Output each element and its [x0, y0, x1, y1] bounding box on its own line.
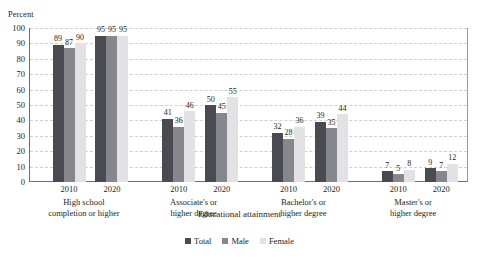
bar-group: 898790: [53, 28, 86, 182]
x-axis-year-label: 2020: [82, 184, 142, 194]
y-axis-tick-label: 40: [17, 116, 26, 125]
bars-layer: 8987909595954136465045553228363935447589…: [29, 28, 468, 182]
x-axis-year-label: 2020: [411, 184, 471, 194]
bar-group: 393544: [315, 28, 348, 182]
y-axis-tick-label: 30: [17, 132, 26, 141]
bar: [404, 170, 415, 182]
bar-group: 322836: [272, 28, 305, 182]
bar: [425, 168, 436, 182]
bar-group: 959595: [95, 28, 128, 182]
bar: [315, 122, 326, 182]
y-axis-tick-label: 0: [21, 178, 25, 187]
bar-value-label: 36: [292, 117, 308, 125]
bar: [447, 164, 458, 182]
y-axis-tick-label: 20: [17, 147, 26, 156]
bar: [337, 114, 348, 182]
y-axis-tick-label: 90: [17, 39, 26, 48]
bar: [75, 43, 86, 182]
x-axis-year-label: 2020: [301, 184, 361, 194]
bar: [53, 45, 64, 182]
legend: TotalMaleFemale: [0, 236, 479, 246]
bar: [227, 97, 238, 182]
bar: [162, 119, 173, 182]
bar-group: 758: [382, 28, 415, 182]
bar-group: 504555: [205, 28, 238, 182]
legend-item[interactable]: Total: [185, 236, 211, 246]
legend-item[interactable]: Male: [222, 236, 248, 246]
bar: [106, 36, 117, 182]
y-axis-tick-label: 50: [17, 101, 26, 110]
bar: [184, 111, 195, 182]
bar-value-label: 12: [444, 154, 460, 162]
bar: [95, 36, 106, 182]
bar: [393, 174, 404, 182]
y-axis-unit-label: Percent: [8, 9, 34, 19]
bar: [272, 133, 283, 182]
y-axis-tick-label: 60: [17, 85, 26, 94]
bar-group: 413646: [162, 28, 195, 182]
legend-label: Male: [231, 236, 248, 246]
legend-swatch: [222, 238, 228, 244]
legend-label: Female: [269, 236, 294, 246]
y-axis-tick-label: 80: [17, 55, 26, 64]
y-axis-tick-label: 100: [12, 24, 25, 33]
bar-value-label: 55: [225, 88, 241, 96]
bar: [205, 105, 216, 182]
legend-swatch: [185, 238, 191, 244]
bar-value-label: 95: [115, 26, 131, 34]
bar: [283, 139, 294, 182]
bar-value-label: 46: [182, 102, 198, 110]
x-axis-year-label: 2020: [192, 184, 252, 194]
bar-value-label: 44: [334, 105, 350, 113]
x-axis-title: Educational attainment: [0, 209, 479, 220]
bar-group: 9712: [425, 28, 458, 182]
legend-label: Total: [194, 236, 211, 246]
bar-chart: Percent 1009080706050403020100 898790959…: [0, 0, 479, 264]
bar: [382, 171, 393, 182]
y-axis-ticks: 1009080706050403020100: [0, 28, 27, 182]
bar: [117, 36, 128, 182]
bar-value-label: 90: [72, 34, 88, 42]
bar-value-label: 8: [401, 160, 417, 168]
bar: [173, 127, 184, 182]
bar: [64, 48, 75, 182]
bar: [326, 128, 337, 182]
y-axis-tick-label: 70: [17, 70, 26, 79]
y-axis-tick-label: 10: [17, 162, 26, 171]
legend-item[interactable]: Female: [260, 236, 294, 246]
bar: [216, 113, 227, 182]
legend-swatch: [260, 238, 266, 244]
bar: [436, 171, 447, 182]
x-axis-category-label-line: Master's or: [348, 197, 478, 208]
bar: [294, 127, 305, 182]
